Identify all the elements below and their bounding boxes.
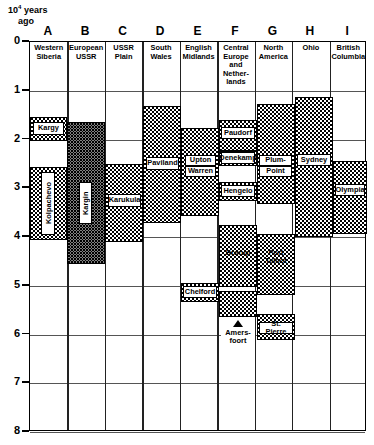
column-letter-H: H: [291, 24, 328, 38]
y-tick-label-5: 5: [2, 278, 20, 290]
column-letter-I: I: [329, 24, 366, 38]
band-paudorf-label: Paudorf: [221, 127, 255, 139]
y-tick-label-8: 8: [2, 424, 20, 436]
column-header-A: Western Siberia: [30, 42, 67, 61]
band-olympia: [333, 161, 367, 234]
column-letter-A: A: [29, 24, 66, 38]
y-tick-label-7: 7: [2, 375, 20, 387]
band-sydney-label: Sydney: [297, 154, 331, 166]
column-letter-E: E: [179, 24, 216, 38]
band-paviland-label: Paviland: [146, 157, 179, 170]
band-kargin-label: Kargin: [79, 182, 92, 224]
column-header-E: English Midlands: [180, 42, 217, 61]
column-letter-F: F: [216, 24, 253, 38]
band-point-label: Point: [259, 166, 292, 177]
y-axis-caption-unit: years: [24, 5, 48, 15]
band-amersfoort-label: Amers- foort: [221, 327, 255, 347]
y-tick-1: [22, 89, 29, 91]
band-hengelo-label: Hengelo: [221, 185, 255, 197]
plot-area: Western SiberiaEuropean USSRUSSR PlainSo…: [29, 41, 366, 431]
column-header-I: British Columbia: [330, 42, 367, 61]
y-tick-label-6: 6: [2, 327, 20, 339]
y-tick-7: [22, 381, 29, 383]
y-tick-6: [22, 333, 29, 335]
column-header-F: Central Europe and Nether- lands: [217, 42, 254, 87]
column-letter-C: C: [104, 24, 141, 38]
column-letter-D: D: [141, 24, 178, 38]
band-port-talbot-label: Port Talbot: [259, 247, 293, 267]
band-olympia-label: Olympia: [335, 184, 365, 196]
column-header-B: European USSR: [67, 42, 104, 61]
column-letter-B: B: [66, 24, 103, 38]
y-tick-label-3: 3: [2, 180, 20, 192]
column-header-G: North America: [255, 42, 292, 61]
y-tick-5: [22, 284, 29, 286]
y-tick-label-4: 4: [2, 229, 20, 241]
y-tick-4: [22, 235, 29, 237]
column-divider-4: [180, 42, 181, 430]
column-header-D: South Wales: [142, 42, 179, 61]
column-letter-G: G: [254, 24, 291, 38]
y-tick-label-0: 0: [2, 34, 20, 46]
band-plum-label: Plum-: [259, 155, 292, 166]
y-axis-caption-main: 10: [8, 5, 18, 15]
gridline-1: [30, 91, 365, 92]
band-st-pierre-label: St. Pierre: [259, 322, 293, 334]
band-karukula-label: Karukula: [108, 194, 141, 207]
band-warren-label: Warren: [185, 166, 216, 177]
band-plum-point: [257, 104, 295, 204]
band-kolpachevo-label: Kolpachevo: [41, 172, 55, 235]
y-axis-caption-exponent: 4: [18, 4, 21, 10]
gridline-6: [30, 335, 365, 336]
amersfoort-arrow-icon: [233, 320, 243, 327]
band-amersfoort: [219, 291, 257, 317]
band-brorup-label: Brørup: [221, 247, 255, 259]
band-upton-label: Upton: [185, 155, 216, 166]
band-kargy-label: Kargy: [33, 122, 64, 135]
y-tick-2: [22, 138, 29, 140]
gridline-8: [30, 432, 365, 433]
band-chelford-label: Chelford: [183, 286, 217, 298]
band-denekamp-label: Denekamp: [221, 152, 255, 164]
column-header-C: USSR Plain: [105, 42, 142, 61]
y-tick-0: [22, 40, 29, 42]
stratigraphic-correlation-chart: 104 years ago 012345678 ABCDEFGHI Wester…: [0, 0, 374, 445]
y-tick-label-1: 1: [2, 83, 20, 95]
band-sydney: [295, 97, 333, 237]
gridline-7: [30, 383, 365, 384]
y-tick-3: [22, 186, 29, 188]
y-tick-label-2: 2: [2, 132, 20, 144]
column-header-H: Ohio: [292, 42, 329, 53]
y-tick-8: [22, 430, 29, 432]
